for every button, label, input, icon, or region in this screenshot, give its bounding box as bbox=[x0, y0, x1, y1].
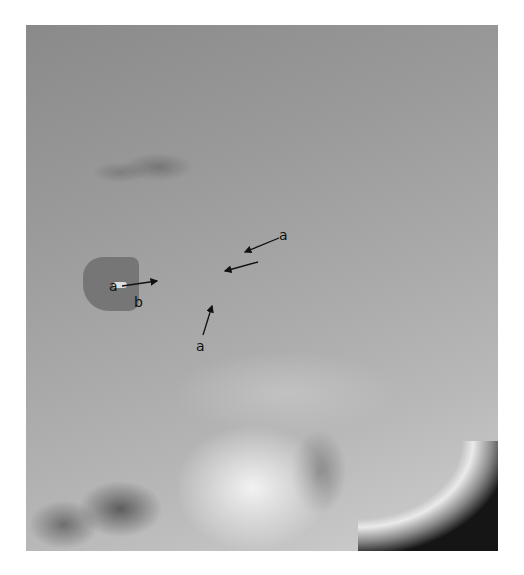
occipital-edge bbox=[358, 441, 498, 551]
annotation-label-a: a bbox=[109, 279, 118, 293]
annotation-label-a: a bbox=[279, 228, 288, 242]
skull-vault-edge bbox=[298, 25, 498, 275]
annotation-label-a: a bbox=[196, 339, 205, 353]
annotation-label-b: b bbox=[134, 295, 143, 309]
